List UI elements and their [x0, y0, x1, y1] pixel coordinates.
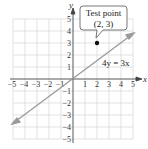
- x-tick: −5: [8, 80, 17, 89]
- coordinate-plane: x y −5 −4 −3 −2 −1 1 2 3 4 5 1 2 3 4 5 −…: [0, 0, 148, 149]
- y-tick: −2: [62, 99, 71, 108]
- x-tick: −4: [20, 80, 29, 89]
- x-axis-arrow-icon: [136, 77, 142, 81]
- y-tick: 1: [67, 63, 71, 72]
- x-tick: 4: [119, 80, 123, 89]
- x-axis-label: x: [142, 74, 147, 84]
- x-tick: 2: [95, 80, 99, 89]
- callout-title: Test point: [86, 8, 122, 18]
- y-tick: 4: [67, 27, 71, 36]
- y-tick: −5: [62, 135, 71, 144]
- equation-label: 4y = 3x: [102, 58, 130, 68]
- test-point-dot: [95, 41, 99, 45]
- x-tick: −3: [32, 80, 41, 89]
- callout-coords: (2, 3): [94, 19, 114, 29]
- test-point-callout: Test point (2, 3): [80, 6, 127, 38]
- y-tick: −4: [62, 123, 71, 132]
- y-tick: −3: [62, 111, 71, 120]
- y-tick: −1: [62, 87, 71, 96]
- y-tick: 2: [67, 51, 71, 60]
- x-tick-labels: −5 −4 −3 −2 −1 1 2 3 4 5: [8, 80, 135, 89]
- x-tick: 5: [131, 80, 135, 89]
- y-axis-label: y: [68, 0, 73, 10]
- y-tick: 3: [67, 39, 71, 48]
- x-tick: 3: [107, 80, 111, 89]
- y-tick: 5: [67, 15, 71, 24]
- x-tick: −2: [44, 80, 53, 89]
- x-tick: 1: [83, 80, 87, 89]
